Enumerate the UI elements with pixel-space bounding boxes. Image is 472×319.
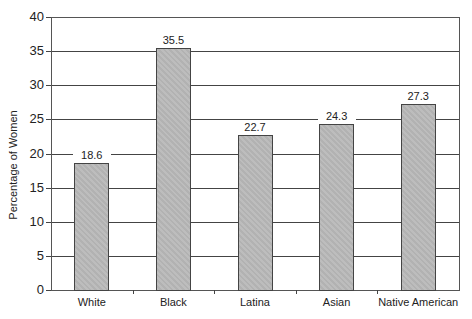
x-tick-mark	[133, 290, 134, 294]
x-tick-mark	[377, 290, 378, 294]
y-axis-title-text: Percentage of Women	[7, 110, 19, 219]
y-tick-label: 5	[20, 248, 44, 263]
bar-native-american	[401, 104, 436, 291]
y-tick-label: 10	[20, 214, 44, 229]
bar-white	[74, 163, 109, 291]
bar-asian	[319, 124, 354, 291]
bar-black	[156, 48, 191, 291]
bar-chart: Percentage of Women 0510152025303540 18.…	[0, 0, 472, 319]
y-tick-label: 0	[20, 282, 44, 297]
y-tick-label: 35	[20, 43, 44, 58]
bar-value-label: 18.6	[73, 149, 111, 161]
y-tick-label: 25	[20, 111, 44, 126]
x-tick-mark	[214, 290, 215, 294]
x-tick-label: Native American	[368, 296, 468, 308]
y-tick-label: 15	[20, 180, 44, 195]
y-tick-label: 40	[20, 9, 44, 24]
bar-value-label: 22.7	[236, 121, 274, 133]
x-tick-mark	[296, 290, 297, 294]
bar-value-label: 27.3	[399, 90, 437, 102]
y-tick-label: 20	[20, 146, 44, 161]
bar-value-label: 24.3	[318, 110, 356, 122]
bar-latina	[238, 135, 273, 291]
bar-value-label: 35.5	[154, 34, 192, 46]
y-tick-label: 30	[20, 77, 44, 92]
